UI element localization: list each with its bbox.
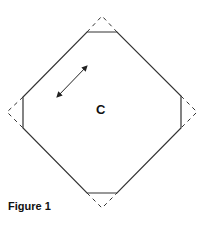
region-label: C (96, 102, 105, 117)
dashed-corner-left (7, 97, 23, 128)
dashed-corner-top (87, 16, 117, 32)
dashed-corner-bottom (87, 193, 117, 208)
figure-caption: Figure 1 (8, 200, 51, 212)
dashed-corner-right (181, 96, 197, 128)
double-arrow-icon (57, 66, 87, 97)
